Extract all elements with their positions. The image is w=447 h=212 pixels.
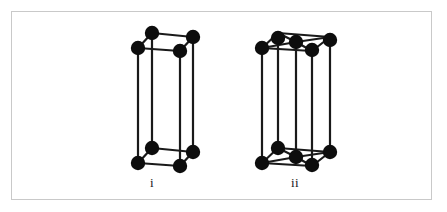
atom-node	[173, 159, 187, 173]
atom-node	[271, 141, 285, 155]
atom-node	[255, 156, 269, 170]
atom-node	[271, 31, 285, 45]
cell-edge	[262, 48, 312, 51]
atom-node	[186, 145, 200, 159]
atom-node	[145, 141, 159, 155]
cell-label-i: i	[136, 176, 168, 189]
atom-node	[289, 150, 303, 164]
atom-node	[173, 44, 187, 58]
atom-node	[323, 33, 337, 47]
atom-node	[255, 41, 269, 55]
atom-node	[131, 156, 145, 170]
atom-node	[305, 43, 319, 57]
atom-node	[289, 35, 303, 49]
cell-label-ii: ii	[279, 176, 311, 189]
unit-cell-i	[131, 26, 200, 173]
unit-cell-ii	[255, 31, 337, 172]
cell-edge	[262, 163, 312, 166]
atom-node	[145, 26, 159, 40]
figure-root: i ii	[0, 0, 447, 212]
atom-node	[323, 145, 337, 159]
atom-node	[186, 30, 200, 44]
atom-node	[305, 158, 319, 172]
unit-cell-diagram-svg	[0, 0, 447, 212]
atom-node	[131, 41, 145, 55]
